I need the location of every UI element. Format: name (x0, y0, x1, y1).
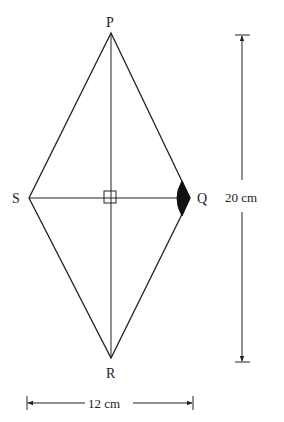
dimension-label-vertical: 20 cm (225, 190, 257, 205)
vertex-label-R: R (106, 366, 116, 381)
vertex-label-Q: Q (197, 191, 207, 206)
shaded-angle-Q (177, 181, 190, 216)
right-angle-marker (104, 191, 116, 203)
dimension-label-horizontal: 12 cm (88, 396, 120, 411)
vertex-label-P: P (106, 15, 114, 30)
vertex-label-S: S (12, 191, 20, 206)
rhombus-outline (29, 33, 190, 358)
rhombus-diagram: P S Q R 20 cm 12 cm (0, 0, 284, 422)
